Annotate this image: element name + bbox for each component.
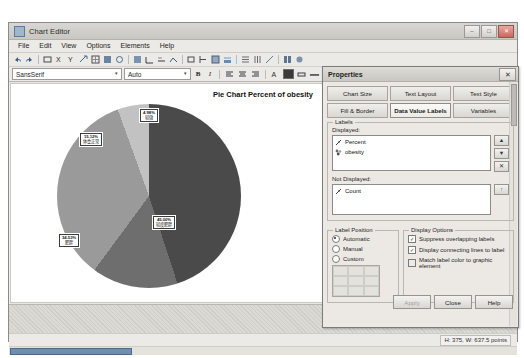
pie-data-label[interactable]: 4.98% 轻微: [140, 109, 158, 122]
fill-icon[interactable]: [132, 54, 143, 65]
close-button[interactable]: ✕: [498, 25, 514, 38]
font-family-select[interactable]: SansSerif ▾: [12, 68, 122, 80]
font-size-select[interactable]: Auto ▾: [124, 68, 191, 80]
help-button[interactable]: Help: [475, 295, 513, 309]
tab-chart-size[interactable]: Chart Size: [327, 86, 388, 101]
list-item[interactable]: Count: [335, 187, 488, 196]
move-up-button[interactable]: ▲: [494, 135, 509, 146]
table-icon[interactable]: [102, 54, 113, 65]
chevron-down-icon[interactable]: ▾: [181, 69, 189, 77]
menu-edit[interactable]: Edit: [34, 40, 56, 52]
tab-row-1: Chart Size Text Layout Text Style: [327, 86, 514, 101]
stack-icon[interactable]: [222, 54, 233, 65]
box-style-icon[interactable]: [186, 54, 197, 65]
pie-label-category: 轻微: [143, 116, 155, 121]
dialog-titlebar[interactable]: Properties ✕: [323, 67, 518, 82]
scrollbar-thumb[interactable]: [10, 348, 132, 355]
menu-file[interactable]: File: [13, 40, 34, 52]
explode-icon[interactable]: [294, 54, 305, 65]
fill-color-icon[interactable]: [283, 69, 294, 79]
horizontal-scrollbar[interactable]: [9, 346, 517, 355]
position-cell[interactable]: [364, 276, 379, 286]
move-down-button[interactable]: ▼: [494, 148, 509, 159]
not-displayed-list-buttons: ↑: [494, 184, 509, 215]
align-right-icon[interactable]: [250, 69, 261, 80]
position-cell[interactable]: [333, 286, 348, 296]
x-axis-icon[interactable]: X: [54, 54, 65, 65]
ruler-icon: [335, 139, 342, 146]
template-icon[interactable]: [210, 54, 221, 65]
dialog-scrollbar-thumb[interactable]: [511, 84, 517, 126]
tab-text-layout[interactable]: Text Layout: [390, 86, 451, 101]
font-family-value: SansSerif: [16, 71, 44, 78]
distribution-icon[interactable]: [282, 54, 293, 65]
pie-data-label[interactable]: 34.53% 肥胖: [59, 234, 79, 247]
custom-position-grid[interactable]: [332, 265, 380, 297]
maximize-button[interactable]: □: [481, 25, 497, 38]
apply-button[interactable]: Apply: [393, 295, 431, 309]
position-cell[interactable]: [348, 266, 363, 276]
displayed-listbox[interactable]: Percent obesity: [332, 135, 491, 171]
transpose-icon[interactable]: [78, 54, 89, 65]
add-label-button[interactable]: ↑: [494, 184, 509, 195]
position-cell[interactable]: [348, 286, 363, 296]
minimize-button[interactable]: –: [464, 25, 480, 38]
chevron-down-icon[interactable]: ▾: [112, 69, 120, 77]
pie-data-label[interactable]: 45.00% 轻度肥胖: [153, 216, 175, 229]
remove-label-button[interactable]: ✕: [494, 161, 509, 172]
pie-graphic[interactable]: [57, 104, 241, 288]
pie-data-label[interactable]: 15.12% 体重正常: [80, 133, 102, 146]
menu-options[interactable]: Options: [81, 40, 115, 52]
align-left-icon[interactable]: [224, 69, 235, 80]
spin-icon[interactable]: [114, 54, 125, 65]
text-color-icon[interactable]: A: [270, 69, 281, 80]
select-data-icon[interactable]: [42, 54, 53, 65]
checkbox-connecting-lines[interactable]: ✓ Display connecting lines to label: [408, 246, 509, 254]
radio-dot-icon: [332, 235, 340, 243]
list-item-label: Percent: [345, 138, 366, 147]
bar-style-icon[interactable]: [144, 54, 155, 65]
not-displayed-listbox[interactable]: Count: [332, 184, 491, 215]
bold-button[interactable]: B: [193, 69, 203, 79]
displayed-row: Percent obesity ▲ ▼ ✕: [332, 135, 509, 172]
radio-automatic[interactable]: Automatic: [332, 235, 394, 243]
checkbox-connecting-lines-label: Display connecting lines to label: [419, 247, 504, 253]
window-titlebar[interactable]: Chart Editor – □ ✕: [9, 23, 517, 40]
menu-help[interactable]: Help: [155, 40, 179, 52]
menu-view[interactable]: View: [56, 40, 81, 52]
area-style-icon[interactable]: [168, 54, 179, 65]
grid-h-icon[interactable]: [240, 54, 251, 65]
redo-icon[interactable]: [24, 54, 35, 65]
display-options-group: Display Options ✓ Suppress overlapping l…: [403, 230, 514, 303]
pie-chart[interactable]: 45.00% 轻度肥胖 34.53% 肥胖 15.12% 体重正常 4.98% …: [57, 104, 241, 288]
chart-grid-icon[interactable]: [90, 54, 101, 65]
radio-manual[interactable]: Manual: [332, 245, 394, 253]
tab-fill-and-border[interactable]: Fill & Border: [327, 103, 388, 118]
list-item[interactable]: Percent: [335, 138, 488, 147]
radio-custom[interactable]: Custom: [332, 255, 394, 263]
grid-v-icon[interactable]: [252, 54, 263, 65]
y-axis-icon[interactable]: Y: [66, 54, 77, 65]
checkbox-suppress-overlapping[interactable]: ✓ Suppress overlapping labels: [408, 235, 509, 243]
italic-button[interactable]: I: [205, 69, 215, 79]
close-dialog-button[interactable]: Close: [434, 295, 472, 309]
undo-icon[interactable]: [12, 54, 23, 65]
tab-text-style[interactable]: Text Style: [453, 86, 514, 101]
border-color-icon[interactable]: [296, 69, 307, 80]
position-cell[interactable]: [364, 286, 379, 296]
position-cell[interactable]: [364, 266, 379, 276]
tab-data-value-labels[interactable]: Data Value Labels: [390, 103, 451, 118]
position-cell[interactable]: [333, 276, 348, 286]
tab-variables[interactable]: Variables: [453, 103, 514, 118]
checkbox-match-label-color[interactable]: Match label color to graphic element: [408, 257, 509, 269]
scale-icon[interactable]: [198, 54, 209, 65]
line-weight-icon[interactable]: [309, 69, 320, 80]
position-cell[interactable]: [348, 276, 363, 286]
ref-line-icon[interactable]: [264, 54, 275, 65]
list-item[interactable]: obesity: [335, 148, 488, 157]
dialog-close-button[interactable]: ✕: [499, 68, 516, 81]
position-cell[interactable]: [333, 266, 348, 276]
menu-elements[interactable]: Elements: [116, 40, 155, 52]
align-center-icon[interactable]: [237, 69, 248, 80]
line-style-icon[interactable]: [156, 54, 167, 65]
